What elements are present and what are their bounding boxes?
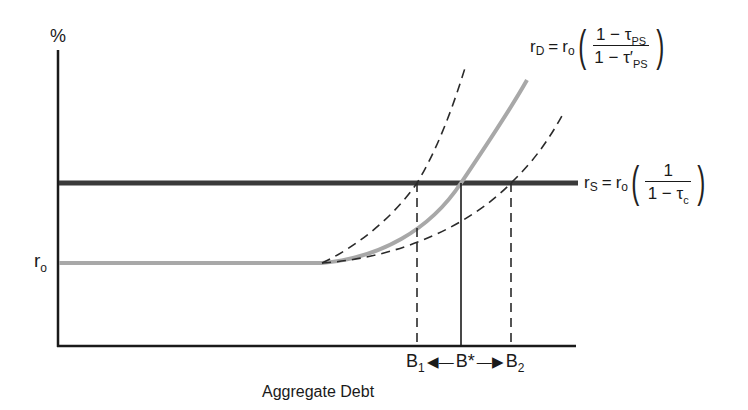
rs-coef-sub: o — [621, 181, 628, 193]
rs-denominator-sub: c — [683, 194, 689, 206]
arrow-right-icon: —▶ — [477, 354, 504, 369]
ro-label: ro — [34, 251, 47, 270]
rd-lhs-sub: D — [536, 45, 545, 57]
rd-upper-dashed-curve — [322, 68, 465, 263]
right-paren: ) — [697, 160, 705, 204]
rd-equals: = — [548, 38, 558, 55]
rs-equation: rS = ro ( 1 1 − τc ) — [584, 160, 708, 204]
rs-numerator: 1 — [663, 161, 672, 180]
bstar-label: B* — [456, 352, 475, 370]
rd-denominator-sub: PS — [633, 58, 648, 70]
rs-fraction: 1 1 − τc — [645, 162, 692, 202]
rd-denominator: 1 − τ′ — [594, 48, 633, 67]
rd-curve — [59, 80, 527, 263]
y-axis-label: % — [50, 27, 66, 45]
rd-fraction: 1 − τPS 1 − τ′PS — [591, 26, 650, 66]
rs-equals: = — [602, 174, 612, 191]
rs-denominator: 1 − τ — [648, 184, 684, 203]
left-paren: ( — [578, 24, 586, 68]
rd-equation: rD = ro ( 1 − τPS 1 − τ′PS ) — [530, 24, 667, 68]
rs-lhs-sub: S — [590, 181, 598, 193]
ro-sub: o — [40, 261, 47, 275]
right-paren: ) — [656, 24, 664, 68]
b2-label: B2 — [506, 352, 525, 370]
rd-coef-sub: o — [568, 45, 575, 57]
arrow-left-icon: ◀— — [427, 354, 454, 369]
rd-numerator-sub: PS — [631, 35, 646, 47]
b-labels: B1 ◀— B* —▶ B2 — [406, 352, 524, 370]
x-axis-label: Aggregate Debt — [262, 384, 374, 400]
b1-label: B1 — [406, 352, 425, 370]
rd-numerator: 1 − τ — [596, 25, 632, 44]
left-paren: ( — [631, 160, 639, 204]
rd-lower-dashed-curve — [322, 112, 564, 263]
